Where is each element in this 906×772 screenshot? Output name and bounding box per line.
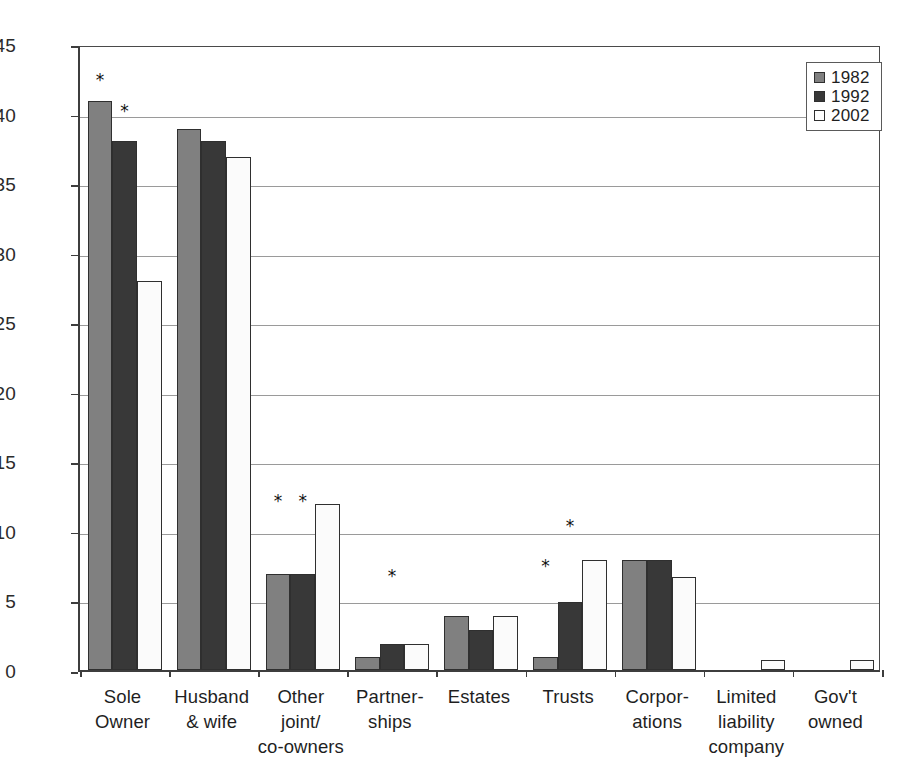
bar	[88, 101, 113, 670]
bar-group	[88, 47, 162, 670]
y-tick-mark	[71, 255, 78, 257]
bar	[761, 660, 786, 670]
legend-label-2002: 2002	[831, 106, 870, 126]
legend-label-1982: 1982	[831, 68, 870, 88]
bar	[315, 504, 340, 670]
bar	[672, 577, 697, 670]
y-tick-mark	[71, 394, 78, 396]
significance-marker: *	[385, 568, 399, 585]
y-tick-label: 35	[0, 174, 16, 196]
bar	[266, 574, 291, 670]
y-tick-label: 30	[0, 244, 16, 266]
bar	[226, 157, 251, 670]
bar-group	[533, 47, 607, 670]
y-tick-label: 5	[0, 591, 16, 613]
bar	[850, 660, 875, 670]
x-axis-label: Gov'towned	[781, 684, 890, 734]
legend-item-1982: 1982	[814, 68, 875, 87]
significance-marker: *	[271, 493, 285, 510]
y-tick-label: 25	[0, 313, 16, 335]
y-tick-mark	[71, 116, 78, 118]
x-tick-mark	[793, 670, 795, 677]
bar	[533, 657, 558, 670]
bar	[380, 644, 405, 670]
bar	[444, 616, 469, 670]
legend-swatch-2002	[814, 110, 825, 121]
significance-marker: *	[563, 518, 577, 535]
y-tick-label: 20	[0, 383, 16, 405]
bar-chart: Percentage ******* 051015202530354045 So…	[0, 0, 906, 772]
bar	[201, 141, 226, 670]
legend-item-2002: 2002	[814, 106, 875, 125]
bar	[112, 141, 137, 670]
y-tick-label: 0	[0, 661, 16, 683]
legend-label-1992: 1992	[831, 87, 870, 107]
y-tick-mark	[71, 533, 78, 535]
bar-group	[800, 47, 874, 670]
bar-group	[177, 47, 251, 670]
legend-item-1992: 1992	[814, 87, 875, 106]
bar	[647, 560, 672, 670]
x-tick-mark	[169, 670, 171, 677]
x-tick-mark	[347, 670, 349, 677]
x-tick-mark	[526, 670, 528, 677]
bar	[582, 560, 607, 670]
bar	[469, 630, 494, 670]
bar-group	[444, 47, 518, 670]
y-tick-mark	[71, 602, 78, 604]
y-tick-mark	[71, 672, 78, 674]
x-tick-mark	[80, 670, 82, 677]
significance-marker: *	[118, 103, 132, 120]
significance-marker: *	[538, 558, 552, 575]
bar	[290, 574, 315, 670]
x-tick-mark	[704, 670, 706, 677]
legend-swatch-1982	[814, 72, 825, 83]
significance-marker: *	[296, 493, 310, 510]
chart-legend: 1982 1992 2002	[806, 62, 882, 131]
bar-group	[711, 47, 785, 670]
bar-group	[266, 47, 340, 670]
significance-marker: *	[93, 72, 107, 89]
y-tick-label: 40	[0, 105, 16, 127]
y-tick-label: 10	[0, 522, 16, 544]
bar	[404, 644, 429, 670]
bar	[355, 657, 380, 670]
y-tick-mark	[71, 185, 78, 187]
y-tick-label: 15	[0, 452, 16, 474]
y-tick-label: 45	[0, 35, 16, 57]
bar	[558, 602, 583, 670]
bar	[493, 616, 518, 670]
y-tick-mark	[71, 463, 78, 465]
y-tick-mark	[71, 324, 78, 326]
bar-group	[622, 47, 696, 670]
bar	[622, 560, 647, 670]
legend-swatch-1992	[814, 91, 825, 102]
plot-area: *******	[78, 46, 880, 672]
x-tick-mark	[615, 670, 617, 677]
y-tick-mark	[71, 46, 78, 48]
x-tick-mark	[882, 670, 884, 677]
x-tick-mark	[436, 670, 438, 677]
bar	[177, 129, 202, 670]
x-tick-mark	[258, 670, 260, 677]
bar	[137, 281, 162, 671]
